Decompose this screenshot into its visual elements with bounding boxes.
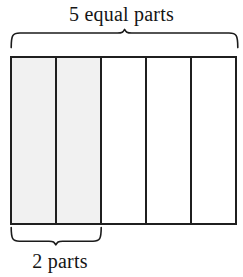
bar-cell-5 bbox=[192, 58, 235, 223]
bottom-brace-label: 2 parts bbox=[0, 249, 120, 273]
partitioned-bar bbox=[10, 56, 237, 225]
bar-cell-1 bbox=[12, 58, 57, 223]
bar-cell-4 bbox=[147, 58, 192, 223]
bar-cell-2 bbox=[57, 58, 102, 223]
top-brace-label: 5 equal parts bbox=[0, 2, 243, 26]
bottom-brace-icon bbox=[6, 226, 108, 248]
fraction-bar-diagram: 5 equal parts 2 parts bbox=[0, 0, 243, 277]
top-brace-icon bbox=[6, 28, 242, 50]
bar-cell-3 bbox=[102, 58, 147, 223]
